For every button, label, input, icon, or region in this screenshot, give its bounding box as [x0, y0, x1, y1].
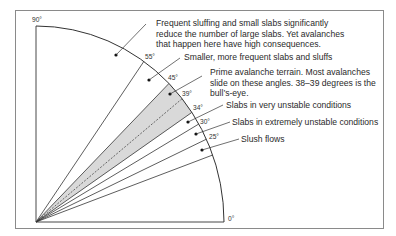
zone-description-55-90: Frequent sluffing and small slabs signif…	[156, 18, 344, 50]
zone-description-below-25: Slush flows	[241, 134, 284, 145]
ray-45	[36, 83, 169, 222]
angle-label-45: 45°	[168, 74, 178, 81]
leader-55-90	[116, 24, 146, 55]
angle-label-30: 30°	[200, 118, 210, 125]
angle-label-39: 39°	[182, 90, 192, 97]
angle-label-0: 0°	[228, 215, 234, 222]
zone-description-45-55: Smaller, more frequent slabs and sluffs	[184, 52, 332, 63]
ray-20	[36, 155, 213, 222]
zone-description-34-45: Prime avalanche terrain. Most avalanches…	[210, 67, 376, 99]
zone-description-25-30: Slabs in extremely unstable conditions	[232, 117, 378, 128]
zone-description-30-34: Slabs in very unstable conditions	[226, 100, 351, 111]
prime-zone-shading	[36, 83, 192, 222]
angle-label-25: 25°	[209, 133, 219, 140]
angle-label-55: 55°	[145, 53, 155, 60]
angle-label-34: 34°	[193, 104, 203, 111]
ray-39-dashed	[36, 99, 182, 222]
ray-34	[36, 112, 192, 222]
angle-label-90: 90°	[32, 16, 42, 23]
